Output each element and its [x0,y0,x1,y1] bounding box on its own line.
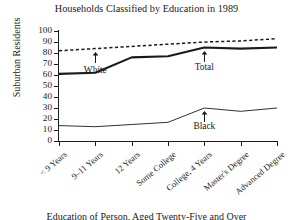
y-tick-label: 100 [38,26,52,35]
annotation-label-white: White [84,66,107,75]
y-tick-label: 30 [43,103,52,112]
y-tick-label: 60 [43,70,52,79]
annotation-arrow-total [201,51,208,62]
y-tick-label: 10 [43,125,52,134]
x-tick-mark [132,141,133,146]
y-axis-title: Suburban Residents [11,0,22,118]
x-tick-mark [204,141,205,146]
y-tick-label: 90 [43,37,52,46]
y-tick-label: 0 [47,136,52,145]
x-tick-mark [241,141,242,146]
series-line-black [59,108,277,127]
x-category-label: 12 Years [113,150,141,176]
chart-title: Households Classified by Education in 19… [0,3,293,14]
x-tick-mark [95,141,96,146]
x-category-label: 9–11 Years [70,150,105,181]
y-tick-label: 40 [43,92,52,101]
annotation-arrow-white [92,52,99,63]
y-tick-label: 80 [43,48,52,57]
y-tick-label: 70 [43,59,52,68]
annotation-label-black: Black [193,122,215,131]
x-tick-mark [277,141,278,146]
x-category-label: < 9 Years [38,150,68,177]
series-lines [59,31,277,141]
plot-area: 0102030405060708090100 < 9 Years9–11 Yea… [59,31,277,141]
y-tick-label: 20 [43,114,52,123]
annotation-label-total: Total [195,63,214,72]
x-tick-mark [168,141,169,146]
chart-figure: Households Classified by Education in 19… [0,0,293,220]
y-tick-label: 50 [43,81,52,90]
x-axis-title: Education of Person, Aged Twenty-Five an… [0,211,293,220]
x-tick-mark [59,141,60,146]
